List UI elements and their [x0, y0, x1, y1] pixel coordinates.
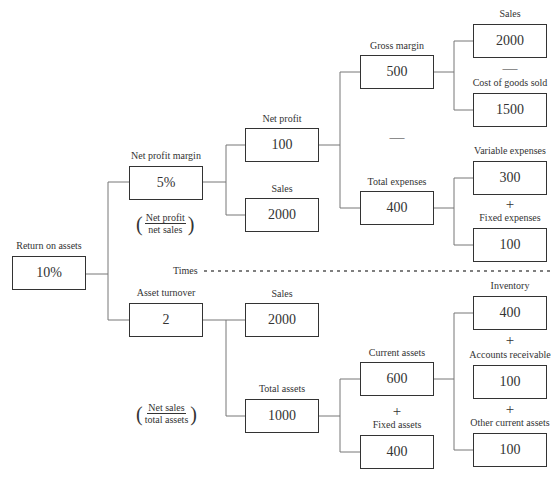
sales-upper-label: Sales [227, 183, 337, 194]
npm-denominator: net sales [148, 224, 182, 235]
gross-margin-label: Gross margin [342, 40, 452, 51]
plus-operator: + [360, 405, 434, 417]
roa-label: Return on assets [0, 240, 104, 251]
npm-numerator: Net profit [145, 212, 186, 224]
other-current-assets-box: 100 [473, 433, 547, 467]
current-assets-box: 600 [360, 362, 434, 396]
minus-operator: — [360, 131, 434, 143]
accounts-receivable-box: 100 [473, 365, 547, 399]
at-formula: ( Net sales total assets ) [136, 402, 197, 425]
fixed-assets-box: 400 [360, 435, 434, 469]
roa-box: 10% [12, 256, 86, 290]
plus-operator: + [473, 334, 547, 346]
sales-lower-label: Sales [227, 288, 337, 299]
plus-operator: + [473, 198, 547, 210]
fixed-expenses-label: Fixed expenses [455, 212, 554, 223]
at-denominator: total assets [145, 414, 189, 425]
cogs-box: 1500 [473, 93, 547, 127]
variable-expenses-box: 300 [473, 161, 547, 195]
fixed-expenses-box: 100 [473, 228, 547, 262]
net-profit-box: 100 [245, 128, 319, 162]
total-expenses-label: Total expenses [342, 176, 452, 187]
roa-decomposition-diagram: Return on assets 10% Net profit margin 5… [0, 0, 554, 478]
current-assets-label: Current assets [342, 347, 452, 358]
fixed-assets-label: Fixed assets [342, 419, 452, 430]
times-label: Times [173, 265, 198, 276]
total-assets-label: Total assets [227, 383, 337, 394]
right-paren: ) [188, 214, 195, 234]
at-numerator: Net sales [147, 402, 185, 414]
sales-gm-label: Sales [455, 8, 554, 19]
sales-upper-box: 2000 [245, 198, 319, 232]
right-paren: ) [190, 404, 197, 424]
other-current-assets-label: Other current assets [455, 417, 554, 428]
gross-margin-box: 500 [360, 55, 434, 89]
variable-expenses-label: Variable expenses [455, 145, 554, 156]
total-assets-box: 1000 [245, 399, 319, 433]
inventory-label: Inventory [455, 280, 554, 291]
inventory-box: 400 [473, 296, 547, 330]
net-profit-label: Net profit [227, 113, 337, 124]
npm-label: Net profit margin [111, 150, 221, 161]
left-paren: ( [136, 214, 143, 234]
cogs-label: Cost of goods sold [455, 77, 554, 88]
minus-operator: — [473, 62, 547, 74]
sales-gm-box: 2000 [473, 24, 547, 58]
npm-formula: ( Net profit net sales ) [136, 212, 195, 235]
plus-operator: + [473, 403, 547, 415]
left-paren: ( [136, 404, 143, 424]
total-expenses-box: 400 [360, 191, 434, 225]
asset-turnover-box: 2 [129, 303, 203, 337]
asset-turnover-label: Asset turnover [111, 287, 221, 298]
sales-lower-box: 2000 [245, 303, 319, 337]
npm-box: 5% [129, 166, 203, 200]
accounts-receivable-label: Accounts receivable [455, 349, 554, 360]
